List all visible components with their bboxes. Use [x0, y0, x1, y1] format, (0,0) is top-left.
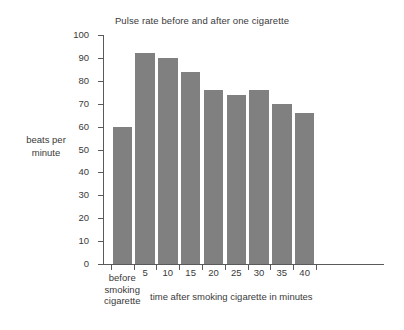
- bar: [113, 127, 133, 264]
- bar: [158, 58, 178, 264]
- plot-area: 0102030405060708090100: [103, 35, 384, 264]
- x-axis-line: [103, 264, 384, 265]
- x-axis-tick-label: 40: [277, 267, 333, 279]
- y-axis-tick: 60: [98, 127, 103, 128]
- bar: [227, 95, 247, 264]
- x-axis-title: time after smoking cigarette in minutes: [150, 291, 390, 302]
- y-axis-tick: 20: [98, 218, 103, 219]
- bar: [272, 104, 292, 264]
- bar-chart: Pulse rate before and after one cigarett…: [0, 0, 404, 330]
- x-axis-tick-label-line: 40: [277, 267, 333, 279]
- x-axis-tick-label-line: smoking: [94, 284, 150, 296]
- chart-title: Pulse rate before and after one cigarett…: [0, 15, 404, 26]
- x-axis-tick-label-line: cigarette: [94, 295, 150, 307]
- y-axis-tick-label: 20: [78, 212, 89, 223]
- y-axis-tick-label: 50: [78, 144, 89, 155]
- bar: [181, 72, 201, 264]
- y-axis-tick-label: 40: [78, 166, 89, 177]
- bar: [295, 113, 315, 264]
- y-axis-tick: 10: [98, 241, 103, 242]
- y-axis-tick: 70: [98, 104, 103, 105]
- y-axis-tick: 30: [98, 195, 103, 196]
- y-axis-title: beats per minute: [6, 133, 86, 159]
- y-axis-tick-label: 30: [78, 189, 89, 200]
- bar: [249, 90, 269, 264]
- bar: [204, 90, 224, 264]
- y-axis-tick-label: 0: [84, 258, 89, 269]
- y-axis-tick-label: 10: [78, 235, 89, 246]
- y-axis-tick-label: 70: [78, 98, 89, 109]
- y-axis-tick: 0: [98, 264, 103, 265]
- y-axis-tick-label: 80: [78, 75, 89, 86]
- y-axis-tick: 80: [98, 81, 103, 82]
- y-axis-tick-label: 90: [78, 52, 89, 63]
- y-axis-tick: 100: [98, 35, 103, 36]
- y-axis-tick-label: 100: [73, 29, 89, 40]
- y-axis-tick: 90: [98, 58, 103, 59]
- y-axis-tick-label: 60: [78, 121, 89, 132]
- y-axis-tick: 40: [98, 172, 103, 173]
- y-axis-title-line-2: minute: [6, 146, 86, 159]
- y-axis-title-line-1: beats per: [6, 133, 86, 146]
- y-axis-tick: 50: [98, 150, 103, 151]
- bars-layer: [103, 35, 384, 264]
- bar: [135, 53, 155, 264]
